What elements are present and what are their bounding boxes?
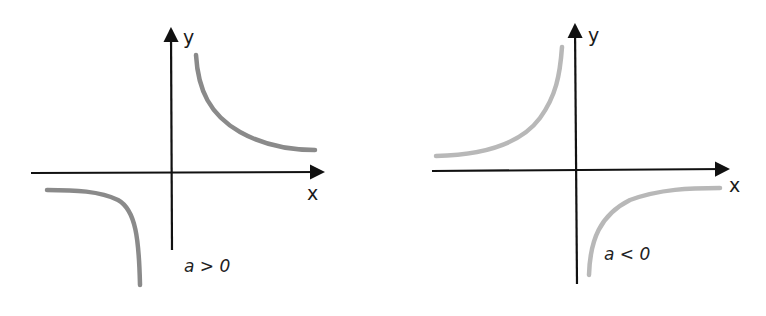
y-axis <box>171 30 172 250</box>
y-axis-label: y <box>183 26 194 48</box>
x-axis-label: x <box>729 174 740 196</box>
condition-label: a < 0 <box>604 244 650 264</box>
y-axis-label: y <box>588 24 599 46</box>
y-axis <box>575 26 577 284</box>
x-axis <box>432 169 727 171</box>
x-axis <box>31 172 322 173</box>
condition-label: a > 0 <box>184 256 230 276</box>
hyperbola-diagram: y x a > 0 y x a < 0 <box>0 0 766 316</box>
curve-quadrant-2 <box>436 47 562 156</box>
curve-quadrant-3 <box>47 190 140 285</box>
panel-a-negative: y x a < 0 <box>432 24 740 284</box>
panel-a-positive: y x a > 0 <box>31 26 322 285</box>
x-axis-label: x <box>307 182 318 204</box>
curve-quadrant-1 <box>196 55 315 150</box>
